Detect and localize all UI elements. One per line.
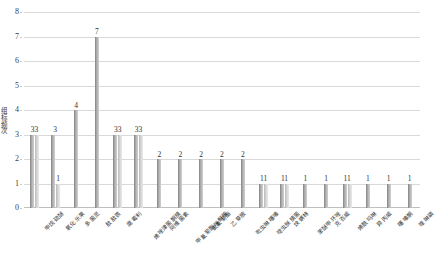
y-tick-label: 3 <box>1 131 19 139</box>
bar[interactable] <box>324 184 328 209</box>
bar-value-label: 2 <box>191 151 212 159</box>
bar[interactable] <box>387 184 391 209</box>
y-axis: 组标频次 012345678 <box>0 12 22 208</box>
bar[interactable] <box>348 184 352 209</box>
y-tick-label: 8 <box>1 8 19 16</box>
bar-group[interactable] <box>128 12 149 208</box>
y-tick-label: 6 <box>1 57 19 65</box>
bar-value-label: 11 <box>337 175 358 183</box>
x-tick-label-text: 乙草胺 <box>230 211 247 228</box>
x-tick-label: 腐霉利 <box>126 211 143 228</box>
bar[interactable] <box>343 184 347 209</box>
bar-value-label: 11 <box>274 175 295 183</box>
bar[interactable] <box>56 184 60 209</box>
bar-group[interactable] <box>149 12 170 208</box>
x-tick-label-text: 敌敌畏 <box>105 211 122 228</box>
bar[interactable] <box>113 135 117 209</box>
bar-value-label: 11 <box>253 175 274 183</box>
y-tick-label: 5 <box>1 82 19 90</box>
y-tick-label: 0 <box>1 204 19 212</box>
bar-value-label: 1 <box>399 175 420 183</box>
y-tick-mark <box>20 12 22 13</box>
bar-group[interactable] <box>212 12 233 208</box>
bar[interactable] <box>199 159 203 208</box>
bar[interactable] <box>241 159 245 208</box>
bar-value-label: 33 <box>24 126 45 134</box>
bar-value-label-secondary: 1 <box>56 175 77 183</box>
bar[interactable] <box>408 184 412 209</box>
x-tick-label-text: 喹啉磷 <box>418 211 435 228</box>
bar-group[interactable] <box>107 12 128 208</box>
bar-value-label: 1 <box>295 175 316 183</box>
y-tick-label: 4 <box>1 106 19 114</box>
bar[interactable] <box>134 135 138 209</box>
bar-group[interactable] <box>87 12 108 208</box>
x-tick-label-text: 甲烷硫醚 <box>45 211 66 232</box>
y-tick-label: 7 <box>1 33 19 41</box>
x-tick-label: 噻嗪酮 <box>397 211 414 228</box>
bar-value-label: 4 <box>66 102 87 110</box>
bar-value-label: 2 <box>232 151 253 159</box>
y-tick-mark <box>20 86 22 87</box>
bar[interactable] <box>178 159 182 208</box>
bar[interactable] <box>51 135 55 209</box>
bar-group[interactable] <box>191 12 212 208</box>
x-tick-label-text: 噻嗪酮 <box>397 211 414 228</box>
bar[interactable] <box>285 184 289 209</box>
bar-value-label: 1 <box>357 175 378 183</box>
bar[interactable] <box>280 184 284 209</box>
bar[interactable] <box>259 184 263 209</box>
y-tick-mark <box>20 37 22 38</box>
bar[interactable] <box>139 135 143 209</box>
bar[interactable] <box>74 110 78 208</box>
bar-value-label: 2 <box>212 151 233 159</box>
x-tick-label: 乙草胺 <box>230 211 247 228</box>
bar[interactable] <box>264 184 268 209</box>
bar[interactable] <box>35 135 39 209</box>
bar-value-label: 7 <box>87 28 108 36</box>
bar[interactable] <box>95 37 99 209</box>
y-tick-mark <box>20 159 22 160</box>
bar-value-label: 1 <box>316 175 337 183</box>
y-tick-mark <box>20 135 22 136</box>
bar-group[interactable] <box>24 12 45 208</box>
x-tick-label-text: 腐霉利 <box>126 211 143 228</box>
plot-area: 33314733332222211111111111 <box>24 12 420 208</box>
bar[interactable] <box>303 184 307 209</box>
bar[interactable] <box>157 159 161 208</box>
bar-value-label: 2 <box>149 151 170 159</box>
x-tick-label: 敌敌畏 <box>105 211 122 228</box>
y-tick-mark <box>20 61 22 62</box>
bar[interactable] <box>366 184 370 209</box>
y-tick-mark <box>20 110 22 111</box>
x-tick-label-text: 多菌灵 <box>84 211 101 228</box>
y-tick-label: 2 <box>1 155 19 163</box>
x-tick-label: 甲烷硫醚 <box>45 211 66 232</box>
y-tick-mark <box>20 208 22 209</box>
bar-value-label: 1 <box>378 175 399 183</box>
bar-value-label: 33 <box>107 126 128 134</box>
bar[interactable] <box>220 159 224 208</box>
bar-group[interactable] <box>232 12 253 208</box>
bar[interactable] <box>118 135 122 209</box>
bar-value-label: 3 <box>45 126 66 134</box>
bar-value-label: 2 <box>170 151 191 159</box>
y-tick-label: 1 <box>1 180 19 188</box>
x-tick-label: 喹啉磷 <box>418 211 435 228</box>
bar-group[interactable] <box>170 12 191 208</box>
bar[interactable] <box>30 135 34 209</box>
x-tick-label-text: 异丙威 <box>376 211 393 228</box>
y-tick-mark <box>20 184 22 185</box>
x-tick-label: 异丙威 <box>376 211 393 228</box>
bar-value-label: 33 <box>128 126 149 134</box>
x-tick-label: 多菌灵 <box>84 211 101 228</box>
